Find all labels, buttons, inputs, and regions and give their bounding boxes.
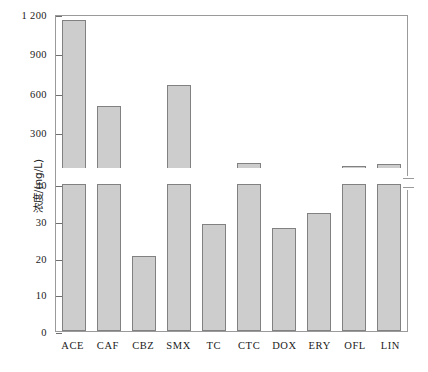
bar-dox[interactable]	[272, 228, 296, 331]
bar-slot-dox	[268, 186, 300, 331]
plot-area: 3006009001 200 010203040	[55, 15, 408, 332]
x-label-smx: SMX	[163, 336, 195, 360]
bar-chart: 浓度/(ng/L) 3006009001 200 010203040 ACECA…	[0, 0, 428, 372]
bar-slot-upper-cbz	[128, 16, 160, 168]
x-label-lin: LIN	[374, 336, 406, 360]
bar-slot-ofl	[339, 186, 371, 331]
bar-slot-upper-ctc	[233, 16, 265, 168]
lower-bars	[56, 186, 407, 331]
bar-upper-ofl[interactable]	[342, 166, 366, 168]
bar-slot-upper-dox	[268, 16, 300, 168]
bar-slot-upper-ofl	[339, 16, 371, 168]
bar-ace[interactable]	[62, 184, 86, 331]
bar-slot-caf	[93, 186, 125, 331]
bar-slot-tc	[198, 186, 230, 331]
x-label-dox: DOX	[269, 336, 301, 360]
x-label-ctc: CTC	[233, 336, 265, 360]
bar-slot-upper-lin	[374, 16, 406, 168]
lower-panel: 010203040	[56, 186, 407, 331]
bar-cbz[interactable]	[132, 256, 156, 331]
bar-upper-ctc[interactable]	[237, 163, 261, 168]
bar-slot-upper-caf	[93, 16, 125, 168]
bar-slot-upper-smx	[163, 16, 195, 168]
bar-ctc[interactable]	[237, 184, 261, 331]
x-label-ery: ERY	[304, 336, 336, 360]
bar-upper-smx[interactable]	[167, 85, 191, 168]
bar-ofl[interactable]	[342, 184, 366, 331]
bar-upper-lin[interactable]	[377, 164, 401, 168]
x-axis-labels: ACECAFCBZSMXTCCTCDOXERYOFLLIN	[55, 336, 408, 360]
bar-slot-lin	[374, 186, 406, 331]
bar-slot-upper-tc	[198, 16, 230, 168]
x-label-ace: ACE	[57, 336, 89, 360]
bar-ery[interactable]	[307, 213, 331, 331]
bar-slot-ace	[58, 186, 90, 331]
bar-upper-caf[interactable]	[97, 106, 121, 168]
upper-bars	[56, 16, 407, 168]
bar-slot-ctc	[233, 186, 265, 331]
x-label-caf: CAF	[92, 336, 124, 360]
bar-slot-smx	[163, 186, 195, 331]
bar-upper-ace[interactable]	[62, 20, 86, 168]
upper-panel: 3006009001 200	[56, 16, 407, 168]
bar-slot-ery	[303, 186, 335, 331]
bar-slot-upper-ery	[303, 16, 335, 168]
bar-slot-upper-ace	[58, 16, 90, 168]
x-label-ofl: OFL	[339, 336, 371, 360]
bar-lin[interactable]	[377, 184, 401, 331]
bar-smx[interactable]	[167, 184, 191, 331]
x-label-tc: TC	[198, 336, 230, 360]
bar-caf[interactable]	[97, 184, 121, 331]
x-label-cbz: CBZ	[127, 336, 159, 360]
bar-slot-cbz	[128, 186, 160, 331]
bar-tc[interactable]	[202, 224, 226, 331]
